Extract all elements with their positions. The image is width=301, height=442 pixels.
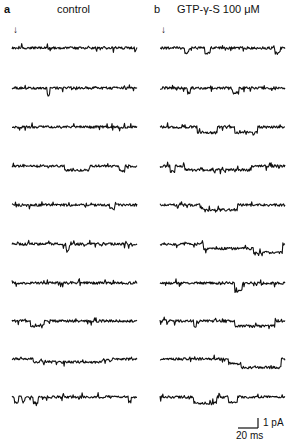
traces-figure [0, 0, 301, 442]
current-trace [12, 357, 137, 366]
current-trace [12, 202, 137, 210]
current-trace [12, 123, 137, 131]
current-trace [160, 393, 285, 405]
panel-b-traces [160, 46, 285, 405]
stimulus-arrow-a-icon: ↓ [13, 24, 18, 35]
current-trace [160, 241, 285, 256]
current-trace [160, 279, 285, 293]
current-trace [160, 85, 285, 94]
current-trace [160, 162, 285, 174]
current-trace [12, 163, 137, 172]
scale-bar-time-label: 20 ms [236, 430, 263, 441]
scale-bar [238, 418, 258, 428]
scale-bar-current-label: 1 pA [263, 417, 284, 428]
current-trace [12, 393, 137, 406]
stimulus-arrow-b-icon: ↓ [161, 24, 166, 35]
current-trace [160, 202, 285, 212]
current-trace [160, 317, 285, 329]
current-trace [12, 318, 137, 328]
current-trace [12, 44, 137, 53]
current-trace [12, 279, 137, 287]
panel-a-traces [12, 44, 137, 406]
current-trace [160, 46, 285, 55]
current-trace [12, 85, 137, 96]
current-trace [12, 240, 137, 252]
current-trace [160, 355, 285, 369]
current-trace [160, 123, 285, 135]
